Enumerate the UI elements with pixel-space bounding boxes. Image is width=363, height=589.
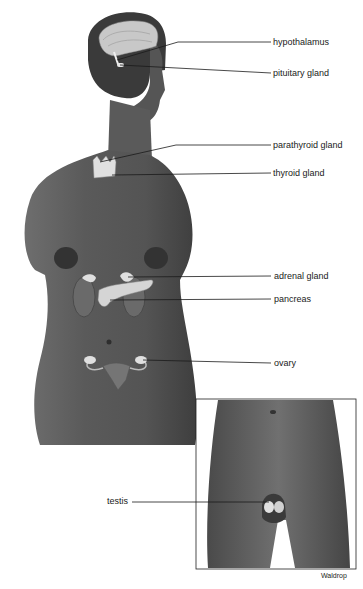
endocrine-diagram: hypothalamus pituitary gland parathyroid…	[0, 0, 363, 589]
ovary-shape	[84, 356, 96, 364]
label-hypothalamus: hypothalamus	[273, 37, 329, 47]
label-testis: testis	[107, 496, 128, 506]
label-pituitary-gland: pituitary gland	[273, 68, 329, 78]
male-pelvis-inset	[196, 399, 356, 569]
label-ovary: ovary	[274, 358, 296, 368]
label-adrenal-gland: adrenal gland	[274, 271, 329, 281]
testis-shape	[264, 501, 274, 513]
label-thyroid-gland: thyroid gland	[273, 168, 325, 178]
illustrator-credit: Waldrop	[321, 572, 347, 579]
label-pancreas: pancreas	[274, 294, 311, 304]
female-figure	[25, 12, 198, 445]
label-parathyroid-gland: parathyroid gland	[273, 140, 343, 150]
